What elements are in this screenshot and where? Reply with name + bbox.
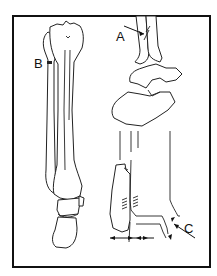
anatomy-figure: A B C [0, 0, 217, 276]
marker-b [47, 61, 52, 64]
label-b: B [34, 57, 43, 70]
label-a: A [116, 30, 125, 43]
left-leg-view [43, 21, 84, 248]
right-bottom-fracture-view [110, 131, 195, 242]
label-c: C [184, 222, 193, 235]
